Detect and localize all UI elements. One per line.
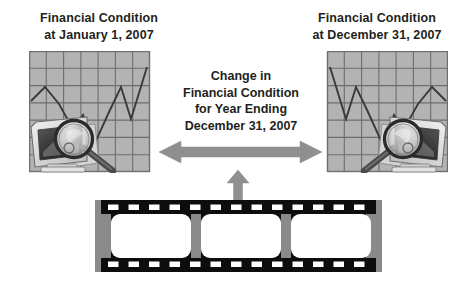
center-caption-line1: Change in — [168, 68, 314, 85]
upward-arrow — [226, 170, 250, 200]
right-panel-title: Financial Condition at December 31, 2007 — [282, 10, 472, 44]
left-panel-title-line2: at January 1, 2007 — [4, 27, 194, 44]
film-frames — [111, 214, 371, 258]
left-panel-title: Financial Condition at January 1, 2007 — [4, 10, 194, 44]
center-caption-line2: Financial Condition — [168, 85, 314, 102]
diagram-canvas: Financial Condition at January 1, 2007 F… — [0, 0, 474, 292]
horizontal-double-arrow — [159, 140, 322, 164]
right-illustration — [326, 51, 448, 173]
center-caption: Change in Financial Condition for Year E… — [168, 68, 314, 134]
left-illustration — [29, 51, 151, 173]
film-frame — [201, 214, 281, 258]
right-panel-title-line1: Financial Condition — [282, 10, 472, 27]
film-frame — [111, 214, 191, 258]
center-caption-line3: for Year Ending — [168, 101, 314, 118]
film-frame — [291, 214, 371, 258]
film-strip — [95, 200, 382, 272]
right-panel-title-line2: at December 31, 2007 — [282, 27, 472, 44]
left-panel-title-line1: Financial Condition — [4, 10, 194, 27]
center-caption-line4: December 31, 2007 — [168, 118, 314, 135]
